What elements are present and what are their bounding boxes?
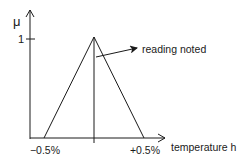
- y-axis-label: μ: [13, 14, 21, 29]
- annotation-label: reading noted: [142, 43, 206, 55]
- y-tick-label: 1: [18, 33, 24, 45]
- membership-diagram: μ 1 temperature h −0.5% +0.5% reading no…: [0, 0, 248, 160]
- x-tick-label-left: −0.5%: [30, 144, 60, 156]
- x-tick-label-right: +0.5%: [130, 144, 160, 156]
- x-axis-label: temperature h: [171, 141, 237, 153]
